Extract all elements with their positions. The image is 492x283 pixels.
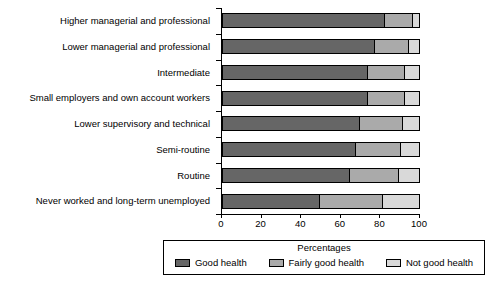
category-tick xyxy=(216,188,222,189)
category-label: Intermediate xyxy=(0,60,216,86)
bar-segment xyxy=(408,39,420,54)
legend-swatch xyxy=(269,259,284,267)
bar-segment xyxy=(367,91,405,106)
value-axis-line xyxy=(221,214,420,215)
stacked-bar-chart: Higher managerial and professional Lower… xyxy=(0,0,492,283)
plot-area: Higher managerial and professional Lower… xyxy=(0,0,492,228)
bar-row xyxy=(222,168,420,183)
bars-container xyxy=(222,8,420,214)
category-tick xyxy=(216,8,222,9)
legend-item[interactable]: Not good health xyxy=(386,258,473,268)
bar-segment xyxy=(349,168,399,183)
bar-segment xyxy=(222,91,367,106)
bar-segment xyxy=(222,116,359,131)
value-tick-label: 0 xyxy=(218,219,223,229)
value-tick-label: 80 xyxy=(374,219,385,229)
value-tick-label: 60 xyxy=(335,219,346,229)
legend-label: Fairly good health xyxy=(289,258,365,268)
bar-segment xyxy=(355,142,401,157)
legend-item[interactable]: Fairly good health xyxy=(269,258,365,268)
bar-segment xyxy=(222,142,355,157)
value-tick-label: 100 xyxy=(411,219,427,229)
category-tick xyxy=(216,163,222,164)
bar-segment xyxy=(222,13,384,28)
legend-title: Percentages xyxy=(164,243,484,253)
category-label: Never worked and long-term unemployed xyxy=(0,188,216,214)
bar-row xyxy=(222,39,420,54)
bar-segment xyxy=(402,116,420,131)
bar-segment xyxy=(404,65,420,80)
chart-legend: Percentages Good healthFairly good healt… xyxy=(163,240,485,275)
bar-segment xyxy=(367,65,405,80)
bar-segment xyxy=(400,142,420,157)
category-tick xyxy=(216,137,222,138)
category-label: Small employers and own account workers xyxy=(0,85,216,111)
category-axis-labels: Higher managerial and professional Lower… xyxy=(0,8,216,214)
bar-row xyxy=(222,13,420,28)
legend-label: Not good health xyxy=(406,258,473,268)
bar-row xyxy=(222,65,420,80)
bar-segment xyxy=(384,13,412,28)
bar-row xyxy=(222,142,420,157)
bar-segment xyxy=(222,194,319,209)
bar-segment xyxy=(319,194,382,209)
category-label: Higher managerial and professional xyxy=(0,8,216,34)
category-label: Routine xyxy=(0,163,216,189)
bar-segment xyxy=(222,168,349,183)
bar-segment xyxy=(222,39,374,54)
category-tick xyxy=(216,111,222,112)
bar-row xyxy=(222,194,420,209)
bar-segment xyxy=(222,65,367,80)
value-tick-label: 40 xyxy=(295,219,306,229)
legend-swatch xyxy=(175,259,190,267)
bar-segment xyxy=(382,194,420,209)
bar-row xyxy=(222,116,420,131)
bar-segment xyxy=(374,39,408,54)
category-label: Lower managerial and professional xyxy=(0,34,216,60)
legend-items: Good healthFairly good healthNot good he… xyxy=(164,258,484,268)
legend-label: Good health xyxy=(195,258,247,268)
category-tick xyxy=(216,60,222,61)
category-tick xyxy=(216,85,222,86)
category-label: Semi-routine xyxy=(0,137,216,163)
legend-item[interactable]: Good health xyxy=(175,258,247,268)
bar-row xyxy=(222,91,420,106)
bar-segment xyxy=(398,168,420,183)
value-tick-label: 20 xyxy=(255,219,266,229)
legend-swatch xyxy=(386,259,401,267)
bar-segment xyxy=(412,13,420,28)
bar-segment xyxy=(359,116,403,131)
bar-segment xyxy=(404,91,420,106)
category-label: Lower supervisory and technical xyxy=(0,111,216,137)
category-tick xyxy=(216,34,222,35)
